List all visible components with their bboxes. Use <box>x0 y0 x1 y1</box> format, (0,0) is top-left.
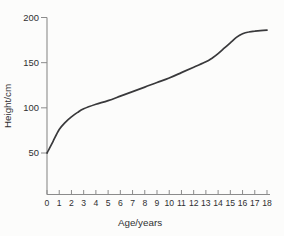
x-tick-label: 0 <box>45 198 50 208</box>
x-axis-ticks: 0123456789101112131415161718 <box>45 190 272 208</box>
x-tick-label: 6 <box>118 198 123 208</box>
y-axis-ticks: 50100150200 <box>23 12 47 159</box>
x-tick-label: 5 <box>106 198 111 208</box>
growth-chart-figure: 0123456789101112131415161718 50100150200… <box>0 0 284 236</box>
x-axis-title: Age/years <box>118 217 162 228</box>
x-tick-label: 2 <box>69 198 74 208</box>
y-tick-label: 150 <box>23 57 39 68</box>
axes <box>47 18 270 195</box>
x-tick-label: 17 <box>250 198 260 208</box>
x-tick-label: 1 <box>57 198 62 208</box>
x-tick-label: 16 <box>238 198 248 208</box>
y-tick-label: 50 <box>29 147 39 158</box>
y-axis-title: Height/cm <box>2 84 13 128</box>
x-tick-label: 14 <box>213 198 223 208</box>
y-tick-label: 200 <box>23 12 39 23</box>
x-tick-label: 10 <box>164 198 174 208</box>
x-tick-label: 8 <box>142 198 147 208</box>
x-tick-label: 9 <box>155 198 160 208</box>
x-tick-label: 7 <box>130 198 135 208</box>
x-tick-label: 3 <box>81 198 86 208</box>
y-tick-label: 100 <box>23 102 39 113</box>
chart-canvas: 0123456789101112131415161718 50100150200… <box>0 0 284 236</box>
x-tick-label: 12 <box>189 198 199 208</box>
x-tick-label: 15 <box>226 198 236 208</box>
x-tick-label: 4 <box>93 198 98 208</box>
x-tick-label: 11 <box>177 198 186 208</box>
x-tick-label: 18 <box>262 198 272 208</box>
height-growth-curve <box>47 30 267 153</box>
x-tick-label: 13 <box>201 198 211 208</box>
